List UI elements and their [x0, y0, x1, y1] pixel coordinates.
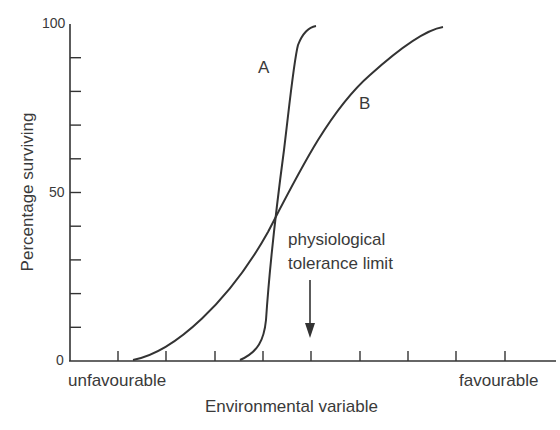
y-tick-label-50: 50: [49, 184, 65, 200]
y-ticks: [70, 58, 81, 328]
y-tick-label-100: 100: [42, 15, 65, 31]
x-axis-label: Environmental variable: [205, 397, 378, 417]
x-ticks: [118, 351, 505, 361]
curve-b: [133, 27, 443, 360]
annotation-line1: physiological: [288, 230, 385, 250]
x-label-favourable: favourable: [459, 371, 538, 391]
arrow-down-icon: [305, 323, 315, 338]
curve-a: [240, 26, 316, 360]
curve-b-label: B: [359, 94, 370, 114]
x-label-unfavourable: unfavourable: [68, 371, 166, 391]
y-axis-label: Percentage surviving: [18, 112, 38, 272]
annotation-line2: tolerance limit: [288, 254, 393, 274]
y-tick-label-0: 0: [56, 352, 64, 368]
chart-canvas: [0, 0, 560, 430]
curve-a-label: A: [258, 58, 269, 78]
